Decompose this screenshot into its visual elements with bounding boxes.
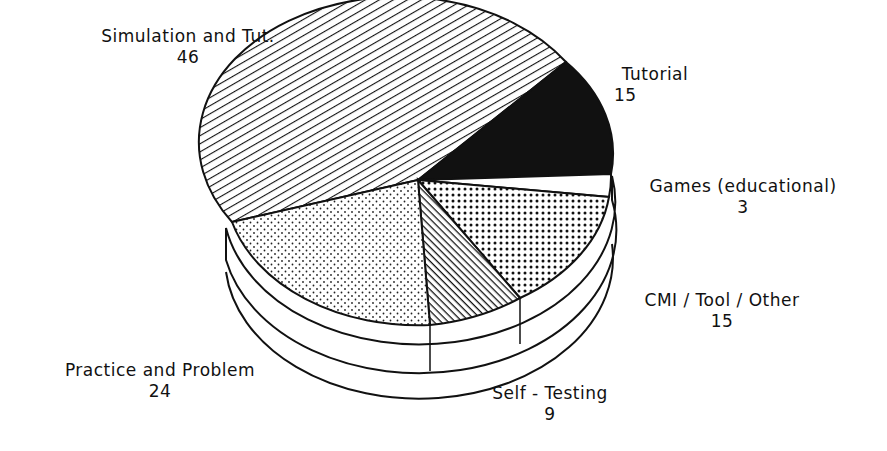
label-games-value: 3 bbox=[628, 197, 858, 218]
label-tutorial-value: 15 bbox=[610, 85, 700, 106]
label-self-testing-name: Self - Testing bbox=[460, 383, 640, 404]
label-self-testing: Self - Testing 9 bbox=[460, 383, 640, 425]
label-cmi-value: 15 bbox=[622, 311, 822, 332]
label-games-name: Games (educational) bbox=[628, 176, 858, 197]
label-tutorial-name: Tutorial bbox=[610, 64, 700, 85]
label-self-testing-value: 9 bbox=[460, 404, 640, 425]
label-practice-value: 24 bbox=[30, 381, 290, 402]
label-tutorial: Tutorial 15 bbox=[610, 64, 700, 106]
label-simulation-name: Simulation and Tut. bbox=[78, 26, 298, 47]
label-cmi: CMI / Tool / Other 15 bbox=[622, 290, 822, 332]
label-games: Games (educational) 3 bbox=[628, 176, 858, 218]
label-practice-name: Practice and Problem bbox=[30, 360, 290, 381]
label-practice: Practice and Problem 24 bbox=[30, 360, 290, 402]
label-simulation: Simulation and Tut. 46 bbox=[78, 26, 298, 68]
label-cmi-name: CMI / Tool / Other bbox=[622, 290, 822, 311]
label-simulation-value: 46 bbox=[78, 47, 298, 68]
